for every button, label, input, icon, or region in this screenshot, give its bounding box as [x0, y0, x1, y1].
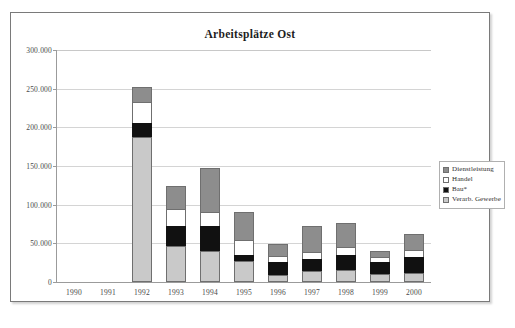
legend-item[interactable]: Handel	[443, 175, 501, 184]
legend-item-label: Verarb. Gewerbe	[452, 195, 501, 204]
x-axis-tick-label: 1993	[159, 288, 193, 297]
bar-group: 1999	[363, 50, 397, 282]
y-axis-tick-label: 300.000	[26, 46, 52, 55]
y-axis-tick-label: 150.000	[26, 162, 52, 171]
bar-segment[interactable]	[404, 234, 424, 250]
legend-swatch-icon	[443, 177, 449, 183]
bar-segment[interactable]	[234, 240, 254, 255]
bar-stack[interactable]	[302, 226, 322, 282]
x-axis-tick-label: 1995	[227, 288, 261, 297]
x-axis-tick-label: 1999	[363, 288, 397, 297]
y-axis-tick-label: 50.000	[30, 239, 52, 248]
bar-segment[interactable]	[268, 244, 288, 256]
bar-group: 2000	[397, 50, 431, 282]
bar-segment[interactable]	[132, 87, 152, 102]
bar-stack[interactable]	[370, 251, 390, 282]
legend-item-label: Handel	[452, 175, 473, 184]
legend-item-label: Bau*	[452, 185, 467, 194]
y-axis-tick-label: 200.000	[26, 123, 52, 132]
bar-segment[interactable]	[336, 270, 356, 282]
y-axis-tickmark	[53, 282, 57, 283]
legend-swatch-icon	[443, 167, 449, 173]
bar-stack[interactable]	[166, 186, 186, 282]
bar-segment[interactable]	[302, 259, 322, 271]
x-axis-tick-label: 1994	[193, 288, 227, 297]
figure-frame: Arbeitsplätze Ost 300.000250.000200.0001…	[10, 12, 490, 302]
chart-title: Arbeitsplätze Ost	[11, 28, 489, 40]
bar-segment[interactable]	[302, 226, 322, 252]
bar-segment[interactable]	[302, 271, 322, 282]
bar-segment[interactable]	[132, 102, 152, 123]
bar-segment[interactable]	[404, 273, 424, 282]
bar-group: 1997	[295, 50, 329, 282]
bar-group: 1993	[159, 50, 193, 282]
bar-stack[interactable]	[234, 212, 254, 282]
bar-segment[interactable]	[268, 275, 288, 282]
y-axis-tick-label: 250.000	[26, 84, 52, 93]
x-axis-tick-label: 1998	[329, 288, 363, 297]
bar-stack[interactable]	[200, 168, 220, 282]
bar-stack[interactable]	[268, 244, 288, 282]
legend-item-label: Dienstleistung	[452, 165, 494, 174]
bar-segment[interactable]	[234, 261, 254, 282]
bar-segment[interactable]	[200, 168, 220, 213]
bar-group: 1990	[57, 50, 91, 282]
bar-group: 1995	[227, 50, 261, 282]
x-axis-tick-label: 1992	[125, 288, 159, 297]
bar-segment[interactable]	[302, 252, 322, 259]
bar-group: 1994	[193, 50, 227, 282]
bar-series-layer: 1990199119921993199419951996199719981999…	[57, 50, 431, 282]
bar-group: 1996	[261, 50, 295, 282]
legend-swatch-icon	[443, 197, 449, 203]
x-axis-tick-label: 1990	[57, 288, 91, 297]
bar-segment[interactable]	[132, 123, 152, 138]
bar-segment[interactable]	[370, 262, 390, 274]
bar-group: 1992	[125, 50, 159, 282]
bar-segment[interactable]	[166, 226, 186, 247]
bar-group: 1998	[329, 50, 363, 282]
x-axis-tick-label: 2000	[397, 288, 431, 297]
chart-legend: DienstleistungHandelBau*Verarb. Gewerbe	[439, 161, 505, 209]
legend-swatch-icon	[443, 187, 449, 193]
bar-segment[interactable]	[200, 226, 220, 251]
bar-segment[interactable]	[336, 255, 356, 270]
x-axis-tick-label: 1997	[295, 288, 329, 297]
bar-segment[interactable]	[166, 246, 186, 282]
legend-item[interactable]: Bau*	[443, 185, 501, 194]
x-axis-tick-label: 1996	[261, 288, 295, 297]
legend-item[interactable]: Verarb. Gewerbe	[443, 195, 501, 204]
y-axis-tick-label: 0	[48, 278, 52, 287]
bar-segment[interactable]	[404, 257, 424, 273]
bar-segment[interactable]	[234, 212, 254, 241]
bar-segment[interactable]	[200, 212, 220, 226]
plot-area: 300.000250.000200.000150.000100.00050.00…	[56, 50, 431, 283]
bar-stack[interactable]	[336, 223, 356, 282]
bar-segment[interactable]	[132, 137, 152, 282]
bar-stack[interactable]	[404, 234, 424, 282]
x-axis-tick-label: 1991	[91, 288, 125, 297]
bar-segment[interactable]	[336, 223, 356, 247]
bar-segment[interactable]	[370, 274, 390, 283]
bar-segment[interactable]	[268, 262, 288, 275]
legend-item[interactable]: Dienstleistung	[443, 165, 501, 174]
bar-segment[interactable]	[336, 247, 356, 255]
bar-segment[interactable]	[166, 186, 186, 209]
bar-segment[interactable]	[166, 209, 186, 225]
bar-segment[interactable]	[200, 251, 220, 282]
bar-group: 1991	[91, 50, 125, 282]
y-axis-tick-label: 100.000	[26, 200, 52, 209]
bar-stack[interactable]	[132, 87, 152, 282]
